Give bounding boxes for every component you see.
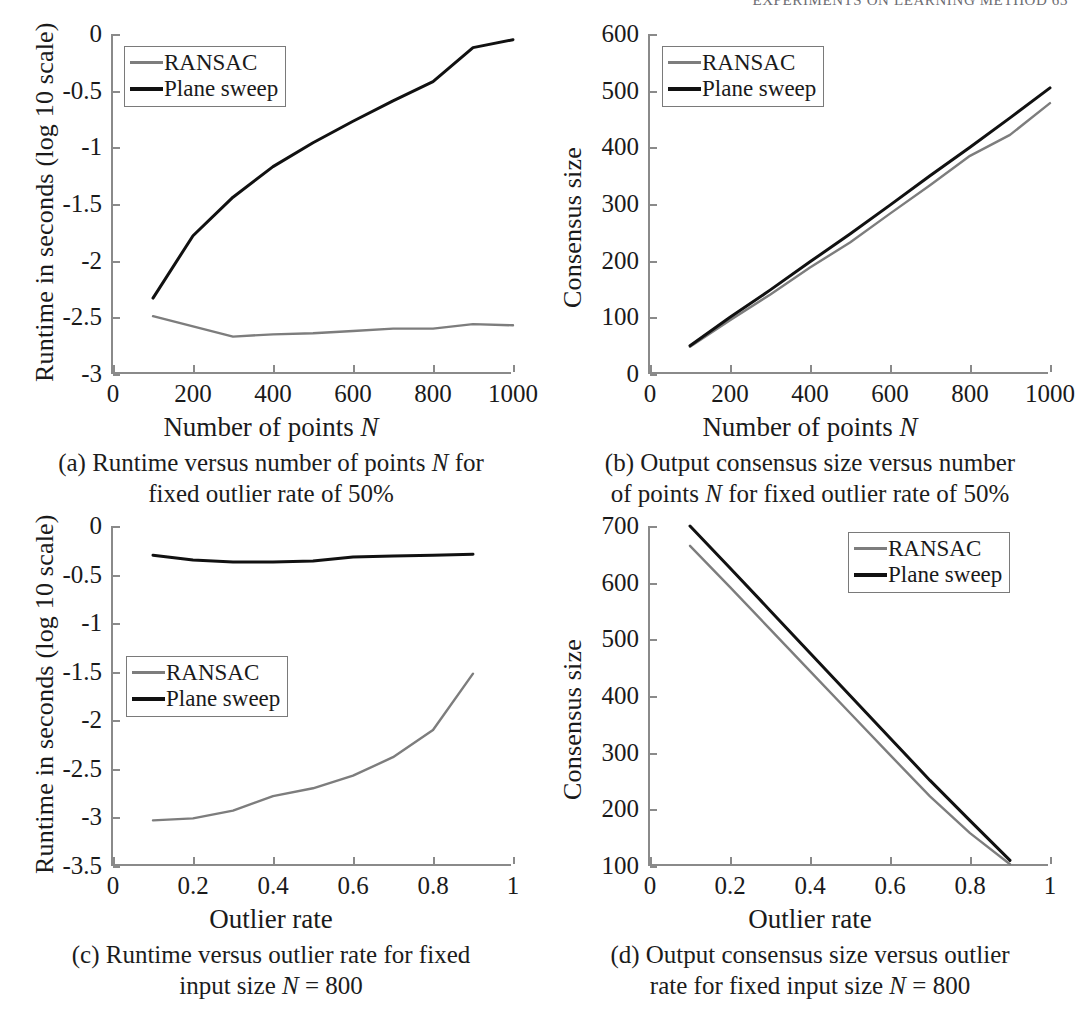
legend-c: RANSAC Plane sweep: [126, 656, 288, 717]
x-tick-label-c-3: 0.6: [337, 872, 368, 900]
x-tick-label-d-3: 0.6: [874, 872, 905, 900]
y-tick-d-0: [650, 866, 657, 868]
legend-line-ransac-icon: [132, 671, 165, 674]
y-tick-label-c-5: -2.5: [62, 755, 102, 783]
caption-d-line1: (d) Output consensus size versus outlier: [536, 940, 1084, 971]
x-axis-title-a: Number of points N: [0, 412, 542, 443]
series-line-ransac: [153, 316, 513, 336]
x-tick-label-a-2: 400: [254, 380, 292, 408]
caption-c-line2: input size N = 800: [0, 971, 542, 1002]
x-tick-label-b-1: 200: [711, 380, 749, 408]
x-tick-label-d-0: 0: [644, 872, 657, 900]
caption-c: (c) Runtime versus outlier rate for fixe…: [0, 940, 542, 1001]
chart-panel-d: Consensus size 10020030040050060070000.2…: [536, 498, 1084, 1010]
legend-entry-plane-sweep: Plane sweep: [130, 76, 278, 102]
x-axis-title-d: Outlier rate: [536, 904, 1084, 935]
y-tick-label-c-2: -1: [81, 609, 102, 637]
legend-label-plane-sweep: Plane sweep: [888, 562, 1002, 588]
legend-d: RANSAC Plane sweep: [848, 532, 1010, 593]
y-axis-title-d: Consensus size: [558, 639, 588, 800]
legend-entry-ransac: RANSAC: [854, 536, 1002, 562]
y-tick-b-0: [650, 374, 657, 376]
caption-b-line1: (b) Output consensus size versus number: [536, 448, 1084, 479]
y-tick-label-c-0: 0: [90, 512, 103, 540]
y-tick-a-6: [113, 374, 120, 376]
y-axis-title-c: Runtime in seconds (log 10 scale): [30, 514, 60, 874]
x-tick-label-c-1: 0.2: [177, 872, 208, 900]
x-axis-title-b: Number of points N: [536, 412, 1084, 443]
y-tick-label-c-6: -3: [81, 803, 102, 831]
x-tick-label-a-0: 0: [107, 380, 120, 408]
y-tick-label-c-7: -3.5: [62, 852, 102, 880]
legend-line-plane-sweep-icon: [854, 573, 887, 577]
x-tick-label-c-2: 0.4: [257, 872, 288, 900]
legend-entry-plane-sweep: Plane sweep: [854, 562, 1002, 588]
legend-entry-ransac: RANSAC: [132, 660, 280, 686]
x-tick-b-5: [1050, 365, 1052, 372]
chart-panel-a: Runtime in seconds (log 10 scale) 0-0.5-…: [0, 8, 542, 500]
y-axis-title-a: Runtime in seconds (log 10 scale): [30, 22, 60, 382]
x-tick-a-5: [513, 365, 515, 372]
y-tick-c-7: [113, 866, 120, 868]
x-tick-label-a-5: 1000: [488, 380, 538, 408]
y-tick-label-d-4: 500: [602, 625, 640, 653]
y-tick-label-c-3: -1.5: [62, 658, 102, 686]
y-tick-label-a-5: -2.5: [62, 303, 102, 331]
y-tick-label-b-3: 300: [602, 190, 640, 218]
caption-d: (d) Output consensus size versus outlier…: [536, 940, 1084, 1001]
x-tick-label-b-4: 800: [951, 380, 989, 408]
legend-entry-ransac: RANSAC: [668, 50, 816, 76]
y-tick-label-d-6: 700: [602, 512, 640, 540]
series-line-ransac: [690, 546, 1010, 864]
y-tick-label-c-1: -0.5: [62, 561, 102, 589]
x-tick-label-c-0: 0: [107, 872, 120, 900]
legend-b: RANSAC Plane sweep: [662, 46, 824, 107]
caption-a-line1: (a) Runtime versus number of points N fo…: [0, 448, 542, 479]
y-tick-label-b-4: 400: [602, 133, 640, 161]
x-tick-label-d-4: 0.8: [954, 872, 985, 900]
legend-label-plane-sweep: Plane sweep: [164, 76, 278, 102]
x-tick-label-d-1: 0.2: [714, 872, 745, 900]
figure-grid: Runtime in seconds (log 10 scale) 0-0.5-…: [0, 0, 1084, 1010]
legend-label-ransac: RANSAC: [702, 50, 795, 76]
legend-entry-plane-sweep: Plane sweep: [668, 76, 816, 102]
y-tick-label-a-0: 0: [90, 20, 103, 48]
x-tick-label-d-5: 1: [1044, 872, 1057, 900]
y-tick-label-d-1: 200: [602, 795, 640, 823]
x-tick-label-b-0: 0: [644, 380, 657, 408]
y-tick-label-d-0: 100: [602, 852, 640, 880]
y-tick-label-a-6: -3: [81, 360, 102, 388]
series-line-ransac: [690, 103, 1050, 347]
y-tick-label-a-4: -2: [81, 247, 102, 275]
legend-entry-ransac: RANSAC: [130, 50, 278, 76]
y-axis-title-b: Consensus size: [558, 147, 588, 308]
legend-line-ransac-icon: [130, 61, 163, 64]
legend-label-ransac: RANSAC: [166, 660, 259, 686]
y-tick-label-d-3: 400: [602, 682, 640, 710]
legend-line-plane-sweep-icon: [130, 87, 163, 91]
legend-entry-plane-sweep: Plane sweep: [132, 686, 280, 712]
y-tick-label-d-2: 300: [602, 739, 640, 767]
chart-panel-b: Consensus size 0100200300400500600020040…: [536, 8, 1084, 500]
legend-line-plane-sweep-icon: [668, 87, 701, 91]
x-tick-label-d-2: 0.4: [794, 872, 825, 900]
x-tick-label-b-3: 600: [871, 380, 909, 408]
x-tick-label-b-2: 400: [791, 380, 829, 408]
y-tick-label-b-0: 0: [627, 360, 640, 388]
x-tick-label-a-1: 200: [174, 380, 212, 408]
y-tick-label-a-2: -1: [81, 133, 102, 161]
y-tick-label-b-1: 100: [602, 303, 640, 331]
x-tick-label-a-4: 800: [414, 380, 452, 408]
legend-line-ransac-icon: [854, 547, 887, 550]
chart-panel-c: Runtime in seconds (log 10 scale) 0-0.5-…: [0, 498, 542, 1010]
series-line-plane-sweep: [153, 554, 473, 562]
figure-page: EXPERIMENTS ON LEARNING METHOD 63 Runtim…: [0, 0, 1084, 1010]
legend-label-plane-sweep: Plane sweep: [166, 686, 280, 712]
legend-line-ransac-icon: [668, 61, 701, 64]
caption-c-line1: (c) Runtime versus outlier rate for fixe…: [0, 940, 542, 971]
legend-line-plane-sweep-icon: [132, 697, 165, 701]
x-tick-c-5: [513, 857, 515, 864]
x-tick-d-5: [1050, 857, 1052, 864]
legend-label-ransac: RANSAC: [164, 50, 257, 76]
legend-label-ransac: RANSAC: [888, 536, 981, 562]
